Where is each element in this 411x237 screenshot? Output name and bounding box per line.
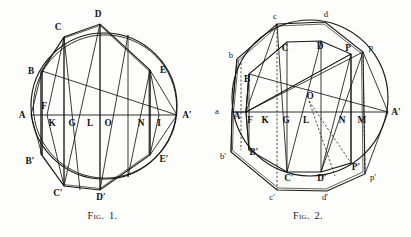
label-D: D bbox=[95, 9, 102, 19]
outer-polygon-shadow bbox=[233, 24, 364, 189]
label-a: a bbox=[215, 106, 219, 116]
chord-a-bprime bbox=[231, 112, 232, 152]
label-B-prime: B′ bbox=[250, 147, 259, 157]
label-K: K bbox=[261, 115, 269, 125]
label-B: B bbox=[244, 74, 250, 84]
label-B: B bbox=[28, 66, 34, 76]
label-c: c bbox=[273, 11, 277, 21]
inner-polygon bbox=[246, 41, 351, 172]
label-G: G bbox=[282, 115, 289, 125]
label-p: p bbox=[369, 42, 373, 52]
label-d-prime: d′ bbox=[322, 192, 328, 200]
label-M: M bbox=[358, 115, 367, 125]
label-b-prime: b′ bbox=[220, 151, 226, 161]
chord-D-Cprime bbox=[64, 24, 100, 186]
chord-Aprime-pprime bbox=[365, 112, 388, 174]
figure-2-caption-prefix: Fig. bbox=[293, 210, 310, 221]
figure-2-caption: Fig. 2. bbox=[205, 205, 411, 223]
figure-2-drawing: b c d p b′ c′ d′ p′ B C D P B′ C′ D′ P′ … bbox=[205, 0, 411, 200]
label-N: N bbox=[138, 118, 145, 128]
label-d: d bbox=[324, 9, 329, 19]
label-N: N bbox=[339, 115, 346, 125]
chord-C-K bbox=[47, 37, 64, 115]
label-F: F bbox=[41, 101, 47, 111]
figure-2: b c d p b′ c′ d′ p′ B C D P B′ C′ D′ P′ … bbox=[205, 0, 411, 237]
figure-2-caption-number: 2. bbox=[314, 210, 323, 221]
label-F: F bbox=[247, 115, 253, 125]
label-L: L bbox=[87, 118, 93, 128]
chord-Aprime-E bbox=[150, 70, 177, 115]
label-D-prime: D′ bbox=[96, 192, 105, 200]
label-E-prime: E′ bbox=[160, 154, 169, 164]
label-L: L bbox=[303, 115, 309, 125]
circle-outline-inner bbox=[33, 35, 176, 178]
label-O: O bbox=[104, 118, 111, 128]
figure-1-drawing: B C D E B′ C′ D′ E′ A F K G L O N I A′ bbox=[0, 0, 205, 200]
label-O: O bbox=[306, 91, 313, 101]
label-b: b bbox=[229, 50, 233, 60]
label-G: G bbox=[68, 118, 75, 128]
label-D: D bbox=[317, 41, 324, 51]
label-K: K bbox=[48, 118, 56, 128]
illustration-page: B C D E B′ C′ D′ E′ A F K G L O N I A′ F… bbox=[0, 0, 411, 237]
label-D-prime: D′ bbox=[317, 173, 326, 183]
label-C-prime: C′ bbox=[53, 188, 62, 198]
chord-upper-Dprime bbox=[100, 35, 128, 190]
dashed-O-Pprime bbox=[309, 101, 351, 163]
figure-1-caption: Fig. 1. bbox=[0, 205, 205, 223]
label-I: I bbox=[157, 118, 161, 128]
label-C: C bbox=[55, 22, 62, 32]
label-A-prime: A′ bbox=[391, 107, 400, 117]
label-P-prime: P′ bbox=[352, 162, 360, 172]
label-A: A bbox=[19, 110, 26, 120]
label-C: C bbox=[282, 43, 289, 53]
chord-B-Aprime bbox=[42, 71, 177, 115]
label-A-prime: A′ bbox=[182, 110, 191, 120]
figure-1: B C D E B′ C′ D′ E′ A F K G L O N I A′ F… bbox=[0, 0, 205, 237]
chord-D-Cprime bbox=[287, 41, 321, 172]
label-P: P bbox=[345, 43, 351, 53]
label-c-prime: c′ bbox=[269, 192, 275, 200]
label-C-prime: C′ bbox=[284, 173, 293, 183]
figure-1-caption-number: 1. bbox=[109, 210, 118, 221]
figure-1-caption-prefix: Fig. bbox=[87, 210, 104, 221]
label-E: E bbox=[160, 65, 166, 75]
label-A: A bbox=[234, 111, 241, 121]
label-p-prime: p′ bbox=[370, 172, 376, 182]
label-B-prime: B′ bbox=[26, 156, 35, 166]
chord-Aprime-p bbox=[363, 52, 388, 112]
chord-B-Aprime bbox=[249, 74, 388, 112]
